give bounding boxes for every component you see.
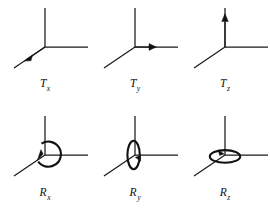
panel-label-sub: z bbox=[227, 84, 230, 93]
panel-tz: Tz bbox=[180, 0, 270, 105]
axis-diagonal bbox=[104, 47, 135, 68]
panel-label-main: R bbox=[40, 186, 47, 198]
panel-rx: Rx bbox=[0, 105, 90, 215]
panel-label-tx: Tx bbox=[0, 78, 90, 90]
panel-ry: Ry bbox=[90, 105, 180, 215]
panel-label-main: T bbox=[130, 77, 137, 89]
panel-label-main: R bbox=[130, 186, 137, 198]
panel-label-ry: Ry bbox=[90, 187, 180, 199]
axis-diagonal bbox=[14, 155, 45, 176]
arrow-down-left-icon bbox=[24, 47, 45, 61]
panel-label-main: R bbox=[220, 186, 227, 198]
circle-ccw-icon bbox=[37, 142, 61, 167]
axes-diagram-rz bbox=[180, 105, 270, 215]
panel-label-sub: y bbox=[137, 84, 141, 93]
panel-label-sub: x bbox=[47, 84, 51, 93]
axes-diagram-ry bbox=[90, 105, 180, 215]
panel-tx: Tx bbox=[0, 0, 90, 105]
panel-label-sub: x bbox=[47, 193, 51, 202]
panel-label-main: T bbox=[220, 77, 227, 89]
panel-label-main: T bbox=[40, 77, 47, 89]
panel-label-ty: Ty bbox=[90, 78, 180, 90]
axes-diagram-rx bbox=[0, 105, 90, 215]
panel-label-rx: Rx bbox=[0, 187, 90, 199]
panel-grid: Tx Ty bbox=[0, 0, 270, 215]
panel-label-rz: Rz bbox=[180, 187, 270, 199]
panel-ty: Ty bbox=[90, 0, 180, 105]
arrow-right-icon bbox=[135, 44, 156, 51]
panel-label-tz: Tz bbox=[180, 78, 270, 90]
figure-root: Tx Ty bbox=[0, 0, 270, 215]
panel-rz: Rz bbox=[180, 105, 270, 215]
axis-diagonal bbox=[194, 47, 225, 68]
arrow-up-icon bbox=[222, 14, 229, 47]
panel-label-sub: y bbox=[137, 193, 141, 202]
